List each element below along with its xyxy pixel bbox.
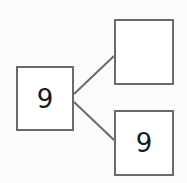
- whole-box: 9: [16, 66, 74, 131]
- connector-top: [74, 56, 114, 94]
- part-bottom-value: 9: [136, 128, 153, 158]
- connector-bottom: [74, 102, 114, 140]
- part-box-top[interactable]: [114, 19, 174, 85]
- part-box-bottom: 9: [114, 110, 174, 176]
- whole-value: 9: [37, 84, 54, 114]
